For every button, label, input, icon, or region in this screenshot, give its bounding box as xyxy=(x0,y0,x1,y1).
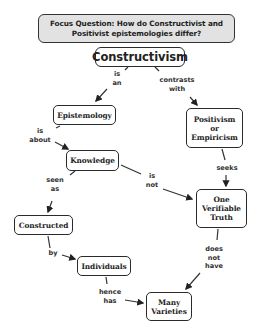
link-label-is-about: is about xyxy=(29,127,51,144)
link-label-is-an: is an xyxy=(112,70,121,87)
edge-constructivism-isan xyxy=(125,67,128,70)
edge-seenas-constructed xyxy=(48,201,52,212)
concept-one-verifiable-truth: One Verifiable Truth xyxy=(196,189,247,228)
link-label-contrasts-with: contrasts with xyxy=(160,76,195,93)
edge-by-individuals xyxy=(62,255,75,259)
concept-epistemology: Epistemology xyxy=(53,105,116,125)
link-label-seen-as: seen as xyxy=(46,176,64,193)
concept-map: Focus Question: How do Constructivist an… xyxy=(0,0,260,336)
concept-constructivism: Constructivism xyxy=(95,47,185,67)
concept-label: Constructivism xyxy=(92,53,188,62)
concept-label: Individuals xyxy=(81,262,126,271)
concept-constructed: Constructed xyxy=(14,215,73,235)
edge-isabout-knowledge xyxy=(55,142,68,149)
link-label-by: by xyxy=(48,249,57,258)
concept-label: Knowledge xyxy=(70,156,115,165)
focus-question-box: Focus Question: How do Constructivist an… xyxy=(38,14,235,43)
concept-many-varieties: Many Varieties xyxy=(146,292,192,321)
concept-individuals: Individuals xyxy=(77,256,131,276)
concept-knowledge: Knowledge xyxy=(66,150,119,171)
edge-truth-doesnothave xyxy=(217,229,218,240)
link-label-hence-has: hence has xyxy=(99,288,121,305)
focus-question-text: Focus Question: How do Constructivist an… xyxy=(50,19,223,38)
edge-constructivism-contrasts xyxy=(155,67,159,71)
concept-positivism-or-empiricism: Positivism or Empiricism xyxy=(186,108,243,148)
edge-positivism-seeks xyxy=(222,149,225,160)
edge-epistemology-isabout xyxy=(56,126,60,128)
edge-hencehas-varieties xyxy=(125,300,143,303)
link-label-does-not-have: does not have xyxy=(205,245,223,271)
edge-knowledge-seenas xyxy=(70,171,75,175)
link-label-seeks: seeks xyxy=(216,164,237,173)
concept-label: Positivism or Empiricism xyxy=(191,115,237,142)
concept-label: One Verifiable Truth xyxy=(202,195,241,222)
edge-knowledge-isnot xyxy=(121,165,141,174)
link-label-is-not: is not xyxy=(146,172,158,189)
edge-constructed-by xyxy=(48,236,50,248)
edge-isan-epistemology xyxy=(96,89,107,101)
edge-isnot-truth xyxy=(163,189,192,199)
edge-doesnothave-varieties xyxy=(186,273,200,289)
edge-contrasts-positivism xyxy=(190,97,197,105)
edge-individuals-hencehas xyxy=(106,277,107,284)
concept-label: Constructed xyxy=(19,221,69,230)
concept-label: Epistemology xyxy=(57,111,112,120)
concept-label: Many Varieties xyxy=(151,298,186,316)
